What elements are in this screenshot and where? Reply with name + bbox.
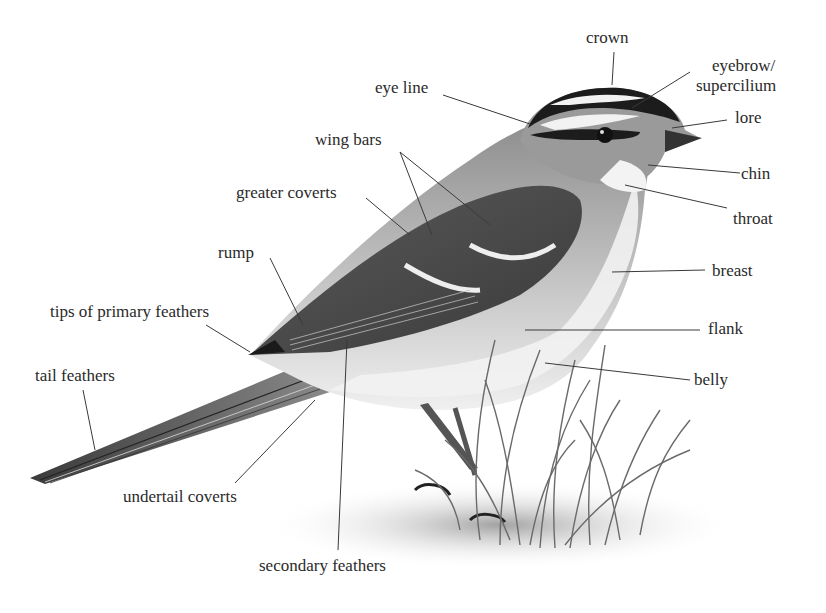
label-rump: rump [218, 243, 254, 262]
leader-eye-line [443, 95, 530, 124]
label-belly: belly [694, 370, 728, 389]
leader-primary-tips [206, 325, 250, 352]
bird-anatomy-diagram: crown eyebrow/ supercilium lore eye line… [0, 0, 826, 613]
label-wing-bars: wing bars [315, 130, 382, 149]
label-eyebrow-line2: supercilium [696, 76, 776, 96]
label-chin: chin [741, 164, 770, 183]
label-eyebrow-line1: eyebrow/ [712, 56, 776, 76]
leader-crown [612, 52, 614, 85]
label-throat: throat [733, 209, 773, 228]
label-tips-of-primary-feathers: tips of primary feathers [50, 302, 209, 321]
leader-rump [270, 258, 303, 325]
label-greater-coverts: greater coverts [236, 183, 337, 202]
label-eyebrow: eyebrow/ supercilium [712, 56, 776, 96]
label-breast: breast [712, 261, 753, 280]
leader-chin [648, 165, 740, 173]
label-secondary-feathers: secondary feathers [259, 556, 386, 575]
label-crown: crown [586, 28, 628, 47]
leader-tail-feathers [83, 390, 95, 450]
label-lore: lore [735, 108, 761, 127]
label-flank: flank [708, 319, 743, 338]
label-tail-feathers: tail feathers [35, 366, 115, 385]
label-undertail-coverts: undertail coverts [123, 487, 237, 506]
label-eye-line: eye line [375, 78, 428, 97]
